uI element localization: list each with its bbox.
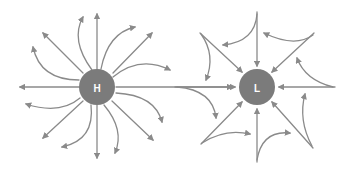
outflow-curved-arrow-icon — [104, 105, 118, 153]
inflow-arrow-icon — [201, 102, 242, 144]
outflow-curved-arrow-icon — [101, 27, 135, 69]
inflow-curved-arrow-icon — [177, 87, 216, 118]
inflow-curved-arrow-icon — [257, 133, 290, 160]
inflow-curved-arrow-icon — [223, 14, 257, 45]
inflow-curved-arrow-icon — [297, 58, 333, 87]
inflow-arrow-icon — [200, 33, 242, 72]
high-outflow-straight-arrows — [20, 14, 232, 158]
outflow-curved-arrow-icon — [116, 93, 162, 122]
outflow-curved-arrow-icon — [33, 47, 79, 80]
low-pressure-system: L — [175, 12, 335, 162]
outflow-arrow-icon — [113, 33, 152, 73]
low-pressure-label: L — [254, 83, 260, 94]
high-pressure-label: H — [93, 83, 100, 94]
outflow-curved-arrow-icon — [78, 17, 92, 70]
high-pressure-system: H — [20, 14, 232, 158]
pressure-diagram: H L — [0, 0, 350, 173]
inflow-curved-arrow-icon — [202, 132, 250, 143]
inflow-curved-arrow-icon — [264, 33, 313, 41]
outflow-curved-arrow-icon — [113, 64, 170, 77]
inflow-arrow-icon — [272, 102, 313, 148]
outflow-curved-arrow-icon — [26, 98, 80, 108]
outflow-arrow-icon — [43, 33, 83, 73]
outflow-curved-arrow-icon — [62, 105, 91, 147]
